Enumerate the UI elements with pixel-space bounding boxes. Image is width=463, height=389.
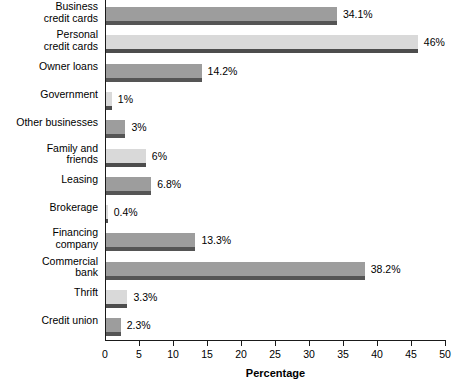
bar-base-shadow	[105, 163, 146, 167]
category-label: Credit union	[0, 315, 98, 327]
x-tick-label: 20	[235, 348, 247, 361]
x-tick-label: 45	[405, 348, 417, 361]
bar-body	[105, 177, 151, 191]
bar-value-label: 2.3%	[127, 319, 151, 332]
bar: 2.3%	[105, 318, 121, 337]
x-tick-label: 35	[337, 348, 349, 361]
bar-base-shadow	[105, 78, 202, 82]
bar-body	[105, 35, 418, 49]
x-tick-mark	[207, 341, 208, 346]
category-label: Brokerage	[0, 202, 98, 214]
x-tick-mark	[343, 341, 344, 346]
x-tick-label: 10	[167, 348, 179, 361]
bar-row: Other businesses3%	[105, 117, 445, 145]
bar-value-label: 1%	[118, 93, 133, 106]
bar-base-shadow	[105, 21, 337, 25]
bar-row: Business credit cards34.1%	[105, 4, 445, 32]
bar-row: Owner loans14.2%	[105, 61, 445, 89]
bar-value-label: 46%	[424, 36, 445, 49]
category-label: Other businesses	[0, 117, 98, 129]
bar-value-label: 6%	[152, 150, 167, 163]
bar-base-shadow	[105, 191, 151, 195]
bar-value-label: 13.3%	[201, 234, 231, 247]
y-axis-line	[105, 0, 106, 341]
bar-body	[105, 7, 337, 21]
horizontal-bar-chart: Business credit cards34.1%Personal credi…	[0, 0, 463, 389]
x-tick-mark	[411, 341, 412, 346]
bar-base-shadow	[105, 49, 418, 53]
category-label: Leasing	[0, 174, 98, 186]
bar-base-shadow	[105, 304, 127, 308]
bar: 46%	[105, 35, 418, 54]
category-label: Financing company	[0, 227, 98, 250]
x-tick-mark	[275, 341, 276, 346]
x-axis-title: Percentage	[105, 367, 446, 379]
x-tick-mark	[377, 341, 378, 346]
bar: 34.1%	[105, 7, 337, 26]
bar-value-label: 3%	[131, 121, 146, 134]
bar-row: Family and friends6%	[105, 146, 445, 174]
bar-base-shadow	[105, 247, 195, 251]
x-tick-label: 25	[269, 348, 281, 361]
bar: 6.8%	[105, 177, 151, 196]
bar-value-label: 14.2%	[208, 65, 238, 78]
x-tick-label: 50	[439, 348, 451, 361]
x-tick-label: 15	[201, 348, 213, 361]
x-tick-label: 40	[371, 348, 383, 361]
bar-body	[105, 64, 202, 78]
x-tick-mark	[241, 341, 242, 346]
bar-body	[105, 318, 121, 332]
bar-row: Government1%	[105, 89, 445, 117]
x-tick-mark	[173, 341, 174, 346]
bar: 38.2%	[105, 262, 365, 281]
bar-value-label: 3.3%	[133, 291, 157, 304]
bar: 14.2%	[105, 64, 202, 83]
bar: 6%	[105, 149, 146, 168]
x-tick-mark	[445, 341, 446, 346]
category-label: Commercial bank	[0, 256, 98, 279]
x-tick-mark	[139, 341, 140, 346]
bar-value-label: 6.8%	[157, 178, 181, 191]
bar-base-shadow	[105, 332, 121, 336]
category-label: Government	[0, 89, 98, 101]
bar-body	[105, 262, 365, 276]
x-tick-label: 5	[136, 348, 142, 361]
bar: 3%	[105, 120, 125, 139]
x-tick-label: 30	[303, 348, 315, 361]
bar-row: Brokerage0.4%	[105, 202, 445, 230]
bar: 13.3%	[105, 233, 195, 252]
bar-base-shadow	[105, 134, 125, 138]
category-label: Business credit cards	[0, 1, 98, 24]
bar-base-shadow	[105, 276, 365, 280]
bar-row: Personal credit cards46%	[105, 32, 445, 60]
bar-value-label: 38.2%	[371, 263, 401, 276]
bar-value-label: 0.4%	[114, 206, 138, 219]
x-tick-label: 0	[102, 348, 108, 361]
bar-row: Financing company13.3%	[105, 230, 445, 258]
category-label: Owner loans	[0, 61, 98, 73]
bar-row: Commercial bank38.2%	[105, 259, 445, 287]
bar-row: Thrift3.3%	[105, 287, 445, 315]
bar-row: Leasing6.8%	[105, 174, 445, 202]
x-tick-mark	[309, 341, 310, 346]
bar-body	[105, 120, 125, 134]
bar-body	[105, 290, 127, 304]
bar-body	[105, 233, 195, 247]
category-label: Personal credit cards	[0, 29, 98, 52]
bar: 3.3%	[105, 290, 127, 309]
category-label: Family and friends	[0, 143, 98, 166]
bar-body	[105, 149, 146, 163]
category-label: Thrift	[0, 287, 98, 299]
bar-value-label: 34.1%	[343, 8, 373, 21]
